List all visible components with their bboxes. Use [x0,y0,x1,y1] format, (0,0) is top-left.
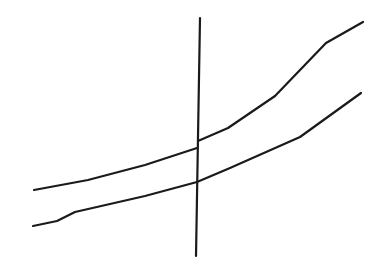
diagram-canvas [0,0,377,270]
background [0,0,377,270]
line-diagram [0,0,377,270]
